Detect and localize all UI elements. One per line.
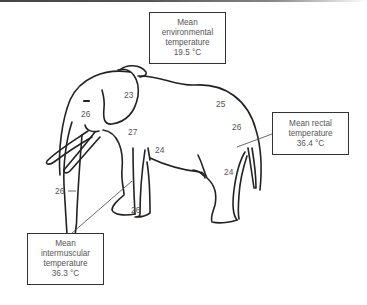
trunk-outer [64,122,72,235]
temp-label-shoulder: 27 [128,128,137,137]
box-line: Mean rectal [273,119,348,129]
head-outline [59,71,130,175]
temp-label-head: 26 [81,110,90,119]
leader-rectal [237,134,272,147]
temp-label-rump: 26 [232,123,241,132]
marker-24 [148,148,150,160]
temp-label-front-foot: 26 [131,206,140,215]
belly [150,158,205,178]
tail [248,148,256,188]
tusk-left [47,131,92,164]
box-line: temperature [28,259,103,269]
intermuscular-temp-box: Mean intermuscular temperature 36.3 °C [27,233,104,285]
temp-label-back: 25 [216,100,225,109]
mouth [85,125,99,132]
temp-label-hind-leg: 24 [224,168,233,177]
box-line: 36.3 °C [28,269,103,279]
temp-label-ear: 23 [124,91,133,100]
leader-intermuscular [72,181,132,233]
box-line: intermuscular [28,249,103,259]
box-line: temperature [273,129,348,139]
box-line: temperature [150,38,225,48]
box-line: 36.4 °C [273,139,348,149]
box-line: environmental [150,28,225,38]
box-line: Mean [150,18,225,28]
hind-leg-front [198,155,237,223]
temp-label-belly: 24 [155,146,164,155]
box-line: Mean [28,239,103,249]
temp-label-trunk: 26 [55,187,64,196]
environmental-temp-box: Mean environmental temperature 19.5 °C [149,12,226,64]
rectal-temp-box: Mean rectal temperature 36.4 °C [272,112,349,155]
box-line: 19.5 °C [150,48,225,58]
